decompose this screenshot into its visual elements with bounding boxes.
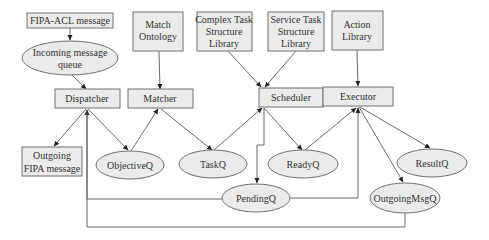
node-label: ReadyQ — [287, 159, 321, 170]
edge-complex-to-scheduler — [228, 51, 261, 87]
edge-scheduler-to-pendingq — [257, 108, 264, 183]
edge-objectiveq-to-matcher — [131, 109, 158, 151]
edge-executor-to-outgoingmsgq — [359, 107, 403, 182]
node-label: Action — [343, 19, 370, 30]
node-label: Dispatcher — [65, 93, 109, 104]
node-label: ResultQ — [416, 158, 450, 169]
edge-service-to-scheduler — [265, 51, 296, 87]
node-label: Library — [281, 38, 311, 49]
node-label: Matcher — [143, 93, 177, 104]
node-label: queue — [58, 59, 82, 70]
node-complex-task-library: Complex Task Structure Library — [195, 12, 253, 51]
node-label: Library — [209, 38, 239, 49]
edge-matcher-to-taskq — [161, 109, 212, 150]
node-label: Structure — [206, 26, 243, 37]
node-readyq: ReadyQ — [268, 150, 338, 178]
node-objectiveq: ObjectiveQ — [96, 151, 164, 179]
edge-executor-to-resultq — [360, 107, 430, 148]
node-label: Executor — [340, 91, 377, 102]
node-label: ObjectiveQ — [107, 160, 154, 171]
node-resultq: ResultQ — [397, 149, 467, 177]
node-label: PendingQ — [236, 193, 277, 204]
node-match-ontology: Match Ontology — [133, 12, 183, 51]
edge-incoming-to-dispatcher — [72, 75, 86, 89]
node-label: Incoming message — [33, 47, 108, 58]
edge-taskq-to-scheduler — [214, 108, 262, 150]
node-label: Library — [342, 31, 372, 42]
node-label: FIPA-ACL message — [30, 15, 111, 26]
node-label: Ontology — [139, 31, 177, 42]
node-matcher: Matcher — [128, 89, 193, 108]
node-label: FIPA message — [24, 163, 81, 174]
node-label: TaskQ — [200, 159, 227, 170]
node-service-task-library: Service Task Structure Library — [268, 12, 324, 51]
edge-scheduler-to-readyq — [264, 108, 302, 150]
node-label: Scheduler — [271, 92, 312, 103]
edge-action-to-executor — [357, 50, 358, 86]
node-outgoing-fipa-message: Outgoing FIPA message — [22, 147, 82, 176]
node-executor: Executor — [323, 87, 393, 106]
node-taskq: TaskQ — [179, 150, 247, 178]
node-pendingq: PendingQ — [222, 184, 290, 212]
node-action-library: Action Library — [332, 11, 383, 50]
node-incoming-message-queue: Incoming message queue — [22, 41, 118, 75]
node-scheduler: Scheduler — [259, 88, 323, 107]
node-dispatcher: Dispatcher — [55, 89, 120, 108]
node-outgoingmsgq: OutgoingMsgQ — [370, 183, 440, 213]
edge-ontology-to-matcher — [159, 51, 160, 89]
node-label: Structure — [278, 26, 315, 37]
node-label: Service Task — [270, 14, 321, 25]
node-label: Complex Task — [195, 14, 253, 25]
edge-dispatcher-to-objectiveq — [88, 109, 128, 150]
edge-readyq-to-executor — [305, 108, 356, 150]
node-fipa-acl-message: FIPA-ACL message — [27, 13, 113, 28]
node-label: Outgoing — [33, 150, 71, 161]
node-label: OutgoingMsgQ — [374, 193, 438, 204]
node-label: Match — [145, 19, 171, 30]
edge-dispatcher-to-outgoing-fipa — [54, 109, 86, 146]
